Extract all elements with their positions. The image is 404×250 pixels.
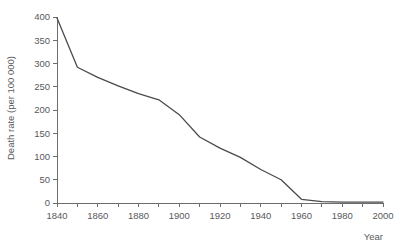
y-tick-label: 0 [45, 197, 50, 208]
x-tick-label: 1960 [291, 210, 312, 221]
x-tick-label: 1900 [169, 210, 190, 221]
y-tick-marks [53, 17, 57, 203]
x-tick-label: 1980 [332, 210, 353, 221]
x-axis: 184018601880190019201940196019802000 [46, 203, 393, 221]
x-tick-label: 1860 [87, 210, 108, 221]
chart-container: 050100150200250300350400 184018601880190… [0, 0, 404, 250]
y-tick-label: 50 [39, 174, 50, 185]
x-tick-label: 1880 [128, 210, 149, 221]
y-tick-label: 150 [34, 128, 50, 139]
x-tick-labels: 184018601880190019201940196019802000 [46, 210, 393, 221]
y-axis-title: Death rate (per 100 000) [5, 56, 16, 160]
y-tick-labels: 050100150200250300350400 [34, 11, 50, 208]
y-tick-label: 100 [34, 151, 50, 162]
series-line-death-rate [57, 18, 383, 202]
x-tick-label: 1920 [209, 210, 230, 221]
y-tick-label: 250 [34, 81, 50, 92]
y-tick-label: 350 [34, 35, 50, 46]
x-tick-label: 1940 [250, 210, 271, 221]
line-chart: 050100150200250300350400 184018601880190… [0, 0, 404, 250]
x-tick-label: 2000 [372, 210, 393, 221]
y-tick-label: 400 [34, 11, 50, 22]
y-tick-label: 300 [34, 58, 50, 69]
y-tick-label: 200 [34, 104, 50, 115]
x-axis-title: Year [364, 231, 383, 242]
x-tick-label: 1840 [46, 210, 67, 221]
x-tick-marks [57, 203, 383, 207]
y-axis: 050100150200250300350400 [34, 11, 57, 208]
